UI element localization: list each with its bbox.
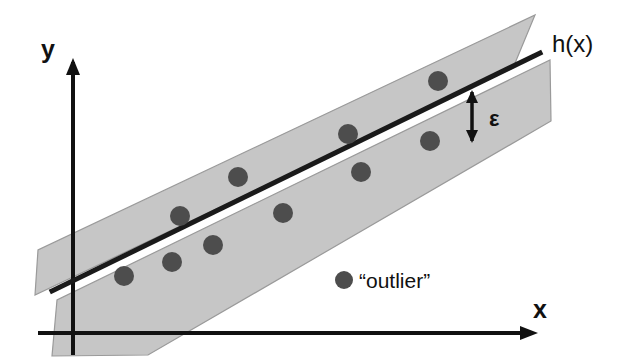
epsilon-label: ε [489, 106, 500, 131]
data-point [162, 252, 182, 272]
x-axis-label: x [533, 295, 547, 323]
outlier-label: “outlier” [359, 269, 430, 292]
data-point [228, 167, 248, 187]
outlier-legend-marker [335, 271, 353, 289]
data-point [428, 71, 448, 91]
data-point [351, 162, 371, 182]
data-point [114, 266, 134, 286]
data-point [273, 203, 293, 223]
data-point [170, 206, 190, 226]
regression-diagram: y x h(x) ε “outlier” [0, 0, 625, 360]
figure-root: y x h(x) ε “outlier” [0, 0, 625, 360]
y-axis-label: y [41, 35, 55, 63]
data-point [420, 131, 440, 151]
data-point [203, 235, 223, 255]
data-point [338, 124, 358, 144]
hypothesis-function-label: h(x) [552, 30, 593, 57]
